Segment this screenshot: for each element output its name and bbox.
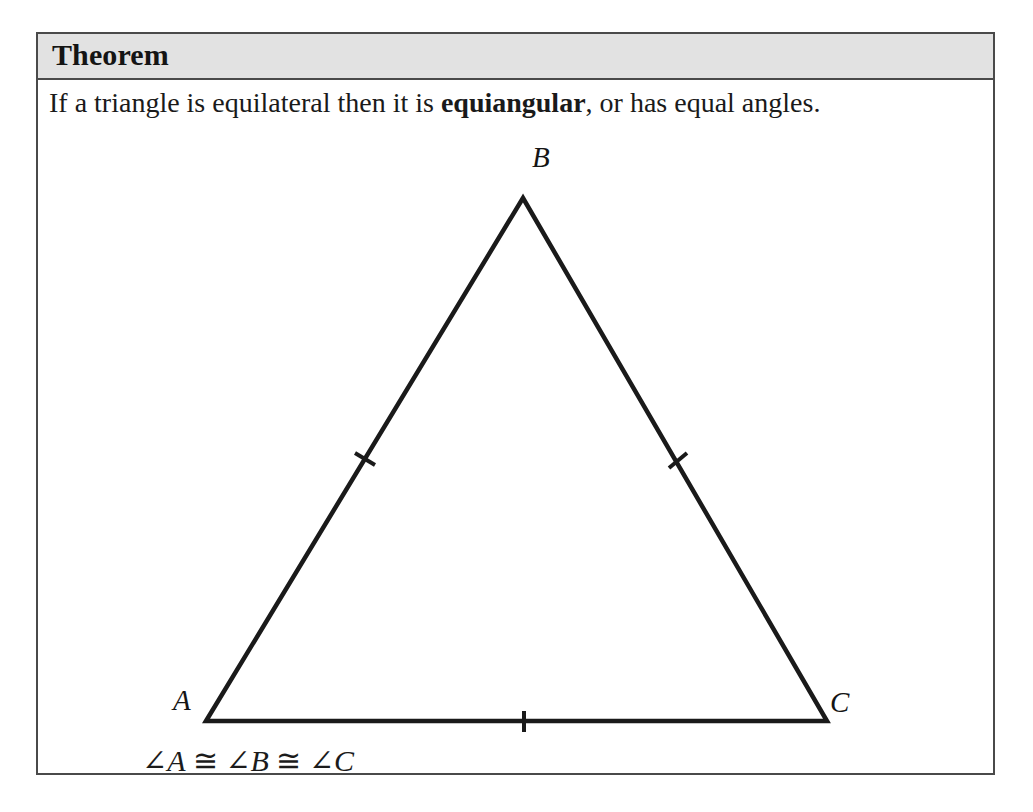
theorem-header-band: Theorem [38,34,993,80]
congruent-symbol-2: ≅ [276,744,301,777]
angle-symbol-a: ∠ [142,744,167,777]
theorem-keyword-equiangular: equiangular [441,87,586,118]
angle-letter-c: C [334,744,354,777]
vertex-label-c: C [830,686,849,719]
vertex-label-a: A [173,684,191,717]
theorem-statement-pre: If a triangle is equilateral then it is [49,87,441,118]
theorem-statement-post: , or has equal angles. [586,87,821,118]
triangle-figure: B A C ∠A ≅ ∠B ≅ ∠C [38,124,993,773]
angle-letter-a: A [167,744,185,777]
page-title: Theorem [52,38,169,72]
vertex-label-b: B [532,141,550,174]
angle-letter-b: B [251,744,269,777]
angle-symbol-b: ∠ [225,744,250,777]
equilateral-triangle-drawing [38,124,993,773]
congruent-symbol-1: ≅ [193,744,218,777]
angle-symbol-c: ∠ [309,744,334,777]
triangle-outline [206,198,827,721]
theorem-box: Theorem If a triangle is equilateral the… [36,32,995,775]
angle-congruence-caption: ∠A ≅ ∠B ≅ ∠C [142,743,354,778]
theorem-statement: If a triangle is equilateral then it is … [49,86,969,120]
